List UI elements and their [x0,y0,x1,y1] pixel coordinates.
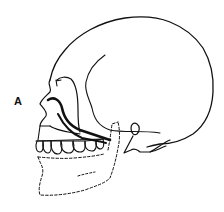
external-ear-opening [131,123,139,134]
teeth-row [36,139,104,154]
mandible-ramus [108,122,118,150]
nasal-profile [40,80,50,126]
temporal-line [86,55,160,133]
skull-diagram: A [0,0,224,212]
skull-drawing [0,0,224,212]
mandible-outline [38,122,120,195]
mandible-inner [78,172,95,176]
orbit-inner [56,80,61,86]
mandible-alveolar [38,154,104,158]
